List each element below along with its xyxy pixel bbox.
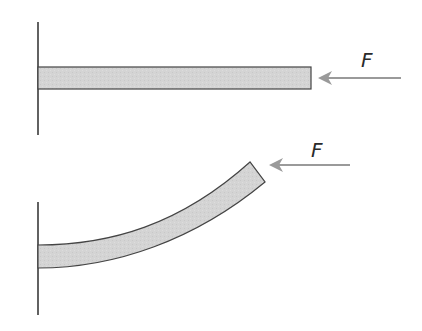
bent-beam-group: F	[38, 138, 350, 315]
straight-beam-group: F	[38, 22, 401, 135]
top-beam	[38, 67, 311, 89]
bottom-beam	[38, 162, 265, 268]
top-force-label: F	[361, 48, 373, 72]
diagram-canvas: F F	[0, 0, 422, 331]
bottom-force-label: F	[311, 138, 323, 162]
beam-diagram: F F	[0, 0, 422, 331]
top-force-arrow	[318, 71, 401, 85]
bottom-force-arrow	[269, 158, 350, 172]
